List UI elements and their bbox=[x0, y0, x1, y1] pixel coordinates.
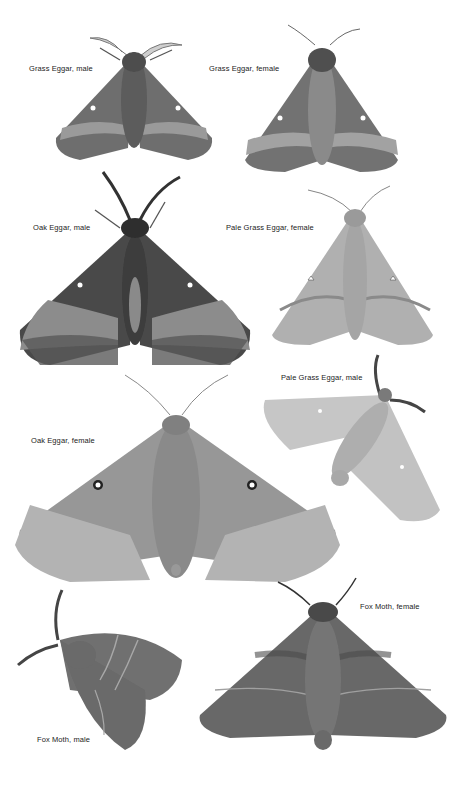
label-fox-moth-female: Fox Moth, female bbox=[360, 602, 420, 611]
label-grass-eggar-male: Grass Eggar, male bbox=[29, 64, 93, 73]
label-grass-eggar-female: Grass Eggar, female bbox=[209, 64, 279, 73]
grass-eggar-male-illustration bbox=[56, 38, 212, 160]
moth-illustrations bbox=[0, 0, 457, 794]
oak-eggar-male-illustration bbox=[20, 172, 250, 365]
label-pale-grass-eggar-male: Pale Grass Eggar, male bbox=[281, 373, 362, 382]
moth-plate: Grass Eggar, male Grass Eggar, female Oa… bbox=[0, 0, 457, 794]
label-fox-moth-male: Fox Moth, male bbox=[37, 735, 90, 744]
fox-moth-male-illustration bbox=[18, 590, 182, 750]
label-pale-grass-eggar-female: Pale Grass Eggar, female bbox=[226, 223, 314, 232]
pale-grass-eggar-female-illustration bbox=[272, 186, 433, 345]
grass-eggar-female-illustration bbox=[245, 25, 398, 172]
label-oak-eggar-male: Oak Eggar, male bbox=[33, 223, 90, 232]
label-oak-eggar-female: Oak Eggar, female bbox=[31, 436, 95, 445]
